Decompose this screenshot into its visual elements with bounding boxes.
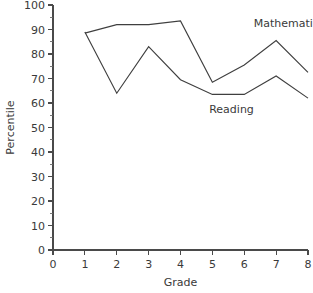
x-tick-label: 2 [113,258,120,271]
line-chart: 0102030405060708090100012345678GradePerc… [0,0,313,293]
axes-group [53,5,308,250]
x-tick-label: 6 [241,258,248,271]
x-tick-label: 8 [305,258,312,271]
y-tick-label: 30 [31,171,45,184]
axis-lines [53,5,308,250]
y-tick-label: 90 [31,24,45,37]
y-tick-label: 100 [24,0,45,12]
y-tick-label: 10 [31,220,45,233]
x-axis-ticks: 012345678 [50,250,312,271]
x-tick-label: 3 [145,258,152,271]
y-tick-label: 50 [31,122,45,135]
series-annotations: MathematicsReading [209,17,313,116]
chart-canvas: 0102030405060708090100012345678GradePerc… [0,0,313,293]
x-tick-label: 4 [177,258,184,271]
y-tick-label: 40 [31,146,45,159]
y-tick-label: 0 [38,244,45,257]
y-axis-ticks: 0102030405060708090100 [24,0,53,257]
y-tick-label: 20 [31,195,45,208]
x-tick-label: 7 [273,258,280,271]
x-tick-label: 1 [81,258,88,271]
x-tick-label: 5 [209,258,216,271]
series-label-mathematics: Mathematics [254,17,313,30]
x-tick-label: 0 [50,258,57,271]
series-line-mathematics [85,21,308,82]
y-axis-title: Percentile [4,100,17,155]
x-axis-title: Grade [164,276,198,289]
y-tick-label: 80 [31,48,45,61]
series-label-reading: Reading [209,103,254,116]
series-group [85,21,308,98]
y-tick-label: 60 [31,97,45,110]
y-tick-label: 70 [31,73,45,86]
